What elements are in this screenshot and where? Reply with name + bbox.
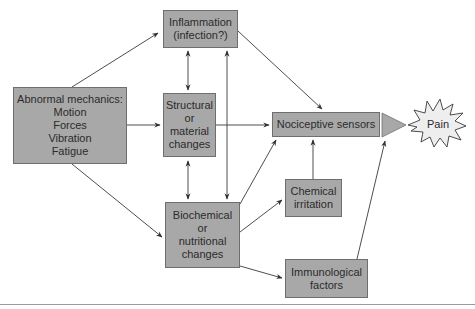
node-abnormal-mechanics: Abnormal mechanics: Motion Forces Vibrat… [13,87,127,164]
edge-abnormal-biochemical [72,164,162,237]
node-chemical-irritation: Chemical irritation [285,179,342,217]
node-label: Immunological factors [291,266,362,292]
node-pain-label: Pain [422,118,454,130]
node-label: Biochemical or nutritional changes [173,209,232,261]
node-inflammation: Inflammation (infection?) [163,10,238,48]
node-nociceptive-sensors: Nociceptive sensors [272,112,380,137]
node-label: Inflammation (infection?) [169,16,232,42]
node-label: Chemical irritation [291,185,337,211]
bottom-divider [0,304,475,305]
edge-immunological-nociceptive [357,141,385,259]
edge-biochemical-nociceptive [240,140,276,204]
node-label: Abnormal mechanics: Motion Forces Vibrat… [17,93,123,158]
node-immunological-factors: Immunological factors [285,259,368,298]
edge-biochemical-immunological [240,266,282,278]
edge-biochemical-chemical [240,200,282,232]
node-label: Nociceptive sensors [277,118,375,131]
edge-abnormal-inflammation [72,33,158,87]
node-structural-changes: Structural or material changes [163,93,216,157]
node-biochemical-changes: Biochemical or nutritional changes [165,202,240,268]
node-label: Structural or material changes [166,99,213,151]
edge-inflammation-nociceptive [238,31,322,109]
pointer-triangle [382,113,406,137]
